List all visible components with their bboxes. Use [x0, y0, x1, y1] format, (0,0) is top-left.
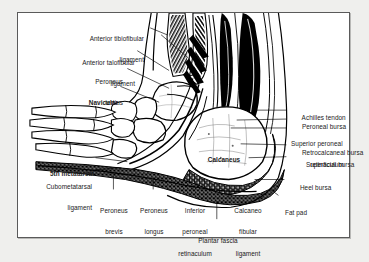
skin-contour — [129, 13, 286, 208]
label-fat-pad: Fat pad — [274, 194, 318, 230]
leg-bones — [167, 13, 207, 84]
label-line: Plantar fascia — [170, 237, 266, 244]
label-superficial-bursa: Superficial bursa — [295, 154, 354, 176]
label-navicular: Navicular — [18, 84, 118, 120]
muscle-striations — [183, 35, 209, 94]
label-line: Navicular — [18, 99, 118, 106]
achilles-tendon-shape — [209, 13, 275, 134]
label-cubometatarsal-ligament: Cubometatarsal ligament — [18, 168, 92, 226]
label-line: Cubometatarsal — [18, 183, 92, 190]
label-line: Inferior — [164, 207, 226, 214]
fifth-metatarsal-base — [111, 139, 136, 158]
figure-frame: Anterior tibiofibular ligament Anterior … — [17, 12, 350, 238]
label-calcaneus: Calcaneus — [196, 141, 252, 177]
label-line: Heel bursa — [300, 184, 331, 191]
anterior-ligaments — [167, 74, 197, 100]
label-line: Calcaneo — [224, 207, 272, 214]
label-plantar-fascia: Plantar fascia — [170, 222, 266, 258]
label-line: Calcaneus — [196, 156, 252, 163]
label-line: Anterior tibiofibular — [18, 35, 144, 42]
label-line: ligament — [18, 204, 92, 211]
label-line: Superficial bursa — [306, 161, 354, 168]
label-line: Fat pad — [274, 209, 318, 216]
